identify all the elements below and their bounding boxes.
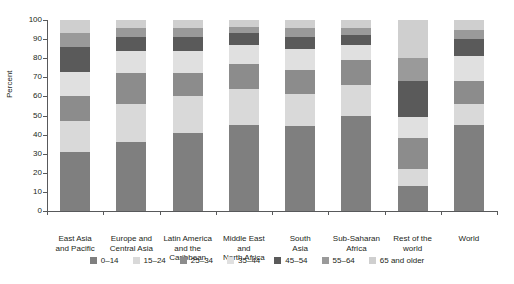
bar-segment-25–34[interactable] bbox=[229, 64, 259, 89]
y-axis-tick-label: 100 bbox=[17, 16, 42, 24]
bar-segment-65-and-older[interactable] bbox=[398, 20, 428, 58]
bar-segment-55–64[interactable] bbox=[60, 33, 90, 46]
bar-6[interactable] bbox=[341, 20, 371, 211]
bar-segment-35–44[interactable] bbox=[60, 72, 90, 97]
bar-segment-25–34[interactable] bbox=[398, 138, 428, 169]
bar-segment-45–54[interactable] bbox=[285, 37, 315, 48]
bar-segment-0–14[interactable] bbox=[60, 152, 90, 211]
bar-segment-0–14[interactable] bbox=[229, 125, 259, 211]
legend-swatch-icon bbox=[90, 257, 97, 264]
category-label-line: and bbox=[237, 244, 250, 253]
bar-segment-65-and-older[interactable] bbox=[229, 20, 259, 27]
y-axis-line bbox=[47, 20, 48, 212]
legend-item-45–54[interactable]: 45–54 bbox=[274, 256, 307, 265]
bar-segment-45–54[interactable] bbox=[60, 47, 90, 72]
bar-segment-35–44[interactable] bbox=[116, 51, 146, 74]
y-axis-tick bbox=[43, 135, 47, 136]
bar-segment-55–64[interactable] bbox=[229, 27, 259, 34]
y-axis-tick-label: 60 bbox=[17, 92, 42, 100]
category-label-line: and Pacific bbox=[56, 244, 95, 253]
category-label-line: world bbox=[403, 244, 422, 253]
y-axis-tick bbox=[43, 77, 47, 78]
bar-4[interactable] bbox=[229, 20, 259, 211]
bar-8[interactable] bbox=[454, 20, 484, 211]
bar-segment-25–34[interactable] bbox=[454, 81, 484, 104]
bar-segment-15–24[interactable] bbox=[229, 89, 259, 125]
legend-label: 15–24 bbox=[144, 256, 166, 265]
bar-segment-25–34[interactable] bbox=[285, 70, 315, 95]
bar-segment-35–44[interactable] bbox=[285, 49, 315, 70]
bar-segment-35–44[interactable] bbox=[229, 45, 259, 64]
bar-segment-65-and-older[interactable] bbox=[173, 20, 203, 28]
bar-segment-55–64[interactable] bbox=[398, 58, 428, 81]
y-axis-tick-label: 40 bbox=[17, 131, 42, 139]
legend-swatch-icon bbox=[369, 257, 376, 264]
legend-item-65-and-older[interactable]: 65 and older bbox=[369, 256, 424, 265]
y-axis-tick-label: 50 bbox=[17, 112, 42, 120]
bar-segment-15–24[interactable] bbox=[454, 104, 484, 125]
bar-segment-15–24[interactable] bbox=[341, 85, 371, 117]
bar-segment-15–24[interactable] bbox=[173, 96, 203, 132]
legend-item-35–44[interactable]: 35–44 bbox=[227, 256, 260, 265]
bar-segment-45–54[interactable] bbox=[229, 33, 259, 44]
bar-segment-0–14[interactable] bbox=[116, 142, 146, 211]
bar-segment-55–64[interactable] bbox=[173, 28, 203, 38]
bar-segment-45–54[interactable] bbox=[116, 37, 146, 50]
category-label-line: Middle East bbox=[223, 234, 265, 243]
bar-segment-15–24[interactable] bbox=[285, 94, 315, 126]
bar-segment-15–24[interactable] bbox=[116, 104, 146, 142]
bar-segment-65-and-older[interactable] bbox=[116, 20, 146, 28]
bar-segment-25–34[interactable] bbox=[341, 60, 371, 85]
x-axis-category-label: World bbox=[437, 234, 501, 244]
bar-segment-45–54[interactable] bbox=[173, 37, 203, 50]
bar-segment-55–64[interactable] bbox=[285, 28, 315, 38]
x-axis-tick bbox=[385, 211, 386, 215]
bar-segment-35–44[interactable] bbox=[341, 45, 371, 60]
bar-segment-65-and-older[interactable] bbox=[285, 20, 315, 28]
bar-segment-45–54[interactable] bbox=[454, 39, 484, 56]
chart-title-strip bbox=[0, 0, 514, 4]
x-axis-category-label: East Asiaand Pacific bbox=[43, 234, 107, 253]
bar-segment-35–44[interactable] bbox=[398, 117, 428, 138]
bar-segment-55–64[interactable] bbox=[454, 30, 484, 40]
bar-segment-15–24[interactable] bbox=[60, 121, 90, 152]
category-label-line: Sub-Saharan bbox=[333, 234, 380, 243]
bar-segment-15–24[interactable] bbox=[398, 169, 428, 186]
bar-segment-25–34[interactable] bbox=[116, 73, 146, 104]
bar-segment-45–54[interactable] bbox=[398, 81, 428, 117]
bar-segment-25–34[interactable] bbox=[60, 96, 90, 121]
bar-segment-65-and-older[interactable] bbox=[60, 20, 90, 33]
bar-segment-35–44[interactable] bbox=[454, 56, 484, 81]
bar-segment-0–14[interactable] bbox=[454, 125, 484, 211]
legend-item-0–14[interactable]: 0–14 bbox=[90, 256, 119, 265]
legend-item-25–34[interactable]: 25–34 bbox=[180, 256, 213, 265]
bar-segment-55–64[interactable] bbox=[341, 28, 371, 36]
bar-5[interactable] bbox=[285, 20, 315, 211]
chart-legend: 0–1415–2425–3435–4445–5455–6465 and olde… bbox=[0, 256, 514, 265]
legend-swatch-icon bbox=[227, 257, 234, 264]
y-axis-tick bbox=[43, 96, 47, 97]
legend-item-15–24[interactable]: 15–24 bbox=[133, 256, 166, 265]
bar-segment-65-and-older[interactable] bbox=[341, 20, 371, 28]
bar-segment-45–54[interactable] bbox=[341, 35, 371, 45]
bar-segment-35–44[interactable] bbox=[173, 51, 203, 74]
plot-area: Percent 0102030405060708090100East Asiaa… bbox=[47, 20, 497, 211]
bar-3[interactable] bbox=[173, 20, 203, 211]
y-axis-title: Percent bbox=[5, 70, 14, 98]
bar-2[interactable] bbox=[116, 20, 146, 211]
x-axis-category-label: Sub-SaharanAfrica bbox=[324, 234, 388, 253]
category-label-line: Latin America bbox=[163, 234, 211, 243]
bar-segment-65-and-older[interactable] bbox=[454, 20, 484, 30]
bar-segment-0–14[interactable] bbox=[173, 133, 203, 211]
bar-segment-55–64[interactable] bbox=[116, 28, 146, 38]
bar-1[interactable] bbox=[60, 20, 90, 211]
legend-item-55–64[interactable]: 55–64 bbox=[322, 256, 355, 265]
bar-segment-0–14[interactable] bbox=[285, 126, 315, 211]
x-axis-category-label: Rest of theworld bbox=[381, 234, 445, 253]
bar-segment-0–14[interactable] bbox=[398, 186, 428, 211]
bar-segment-25–34[interactable] bbox=[173, 73, 203, 96]
category-label-line: and the bbox=[174, 244, 201, 253]
bar-7[interactable] bbox=[398, 20, 428, 211]
x-axis-tick bbox=[160, 211, 161, 215]
bar-segment-0–14[interactable] bbox=[341, 116, 371, 211]
